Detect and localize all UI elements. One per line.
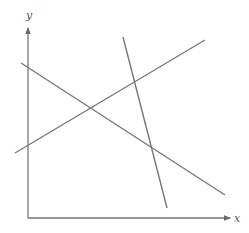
line-descending bbox=[21, 63, 225, 195]
y-axis-label: y bbox=[25, 9, 33, 22]
lines-group bbox=[15, 37, 225, 208]
line-ascending bbox=[15, 40, 205, 153]
line-steep bbox=[123, 37, 167, 208]
x-axis-label: x bbox=[234, 212, 241, 225]
diagram-canvas: x y bbox=[0, 0, 249, 233]
